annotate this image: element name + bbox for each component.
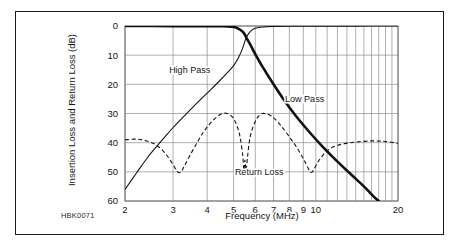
- curve-high-pass: [125, 26, 398, 189]
- y-tick-label: 20: [107, 79, 118, 90]
- x-tick-label: 20: [393, 204, 404, 215]
- x-tick-label: 9: [301, 204, 306, 215]
- annotation-return-loss: Return Loss: [235, 167, 284, 177]
- y-tick-label: 40: [107, 137, 118, 148]
- y-tick-label: 10: [107, 50, 118, 61]
- chart-svg: 234567891020 0102030405060 High PassHigh…: [0, 0, 460, 251]
- x-tick-label: 3: [170, 204, 175, 215]
- annotation-low-pass: Low Pass: [285, 94, 325, 104]
- x-tick-label: 10: [311, 204, 322, 215]
- figure-container: 234567891020 0102030405060 High PassHigh…: [0, 0, 460, 251]
- y-tick-label: 30: [107, 108, 118, 119]
- figure-id-label: HBK0071: [61, 211, 95, 220]
- y-tick-label: 0: [113, 20, 118, 31]
- y-axis-tick-labels: 0102030405060: [107, 20, 118, 206]
- x-tick-label: 4: [205, 204, 210, 215]
- y-tick-label: 60: [107, 195, 118, 206]
- x-tick-label: 2: [122, 204, 127, 215]
- annotation-high-pass: High Pass: [169, 65, 211, 75]
- y-tick-label: 50: [107, 166, 118, 177]
- x-axis-title: Frequency (MHz): [225, 210, 298, 221]
- y-axis-title: Insertion Loss and Return Loss (dB): [66, 34, 77, 186]
